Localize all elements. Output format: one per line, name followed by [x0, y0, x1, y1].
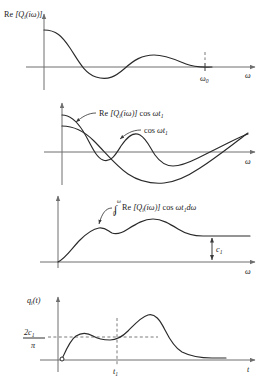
cos-label: cos ωt1 — [144, 126, 168, 136]
re-q-cos-label: Re [Qi(iω)] cos ωt1 — [99, 109, 164, 119]
panel-2-x-axis-label: ω — [245, 157, 251, 166]
origin-marker — [60, 357, 64, 361]
t1-label: t1 — [113, 367, 118, 377]
panel-4: qi(t) 2c1 π t1 t — [23, 296, 255, 377]
panel-3-x-axis-label: ω — [245, 267, 251, 276]
level-numerator: 2c1 — [24, 328, 35, 338]
panel-4-x-axis-label: t — [247, 365, 250, 374]
integral-lower-limit: 0 — [113, 210, 116, 216]
panel-3: ∫ 0 ω Re [Qi(iω)] cos ωt1dω c1 ω — [40, 196, 255, 276]
panel-1: ω0 Re [Qi(iω)] ω — [4, 10, 255, 90]
figure-container: ω0 Re [Qi(iω)] ω Re [Qi(iω)] cos ωt1 cos… — [0, 0, 268, 381]
figure-svg: ω0 Re [Qi(iω)] ω Re [Qi(iω)] cos ωt1 cos… — [0, 0, 268, 381]
panel-1-x-axis-label: ω — [245, 71, 251, 80]
integral-leader — [99, 208, 112, 224]
re-q-cos-leader — [76, 113, 96, 122]
c1-label: c1 — [216, 245, 223, 255]
panel-2: Re [Qi(iω)] cos ωt1 cos ωt1 ω — [44, 103, 255, 185]
level-denominator: π — [31, 341, 36, 350]
omega0-label: ω0 — [200, 74, 209, 84]
re-q-curve — [44, 30, 212, 78]
panel-4-y-axis-label: qi(t) — [27, 296, 41, 306]
integral-label: Re [Qi(iω)] cos ωt1dω — [122, 203, 197, 213]
panel-1-y-axis-label: Re [Qi(iω)] — [4, 10, 43, 20]
product-curve — [62, 115, 248, 166]
integral-curve — [58, 219, 250, 262]
integral-upper-limit: ω — [117, 198, 121, 204]
